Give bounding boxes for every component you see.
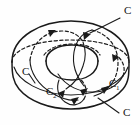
label-c1-right-subscript: 1 <box>116 84 120 92</box>
label-c1-right-group: C 1 <box>109 77 120 92</box>
torus-outline-group <box>12 21 129 109</box>
cycle-c-right-visible <box>73 30 92 86</box>
figure-canvas: C C C 1 C 2 C <box>0 0 140 125</box>
label-c2-bottom-left-group: C 2 <box>46 85 57 100</box>
label-c2-bottom-left-subscript: 2 <box>53 92 57 100</box>
leader-line-c-top-right <box>90 18 120 33</box>
torus-diagram: C C C 1 C 2 C <box>0 0 140 125</box>
cycle-c1-longitude <box>58 55 124 96</box>
label-c-top-right: C <box>124 4 131 16</box>
cycle-c-left-arrowhead <box>48 30 56 37</box>
label-c-left: C <box>22 65 29 77</box>
label-c-bottom-right: C <box>123 106 130 118</box>
torus-outer-equator-dashed <box>12 40 129 62</box>
torus-inner-hole-front <box>46 61 98 80</box>
